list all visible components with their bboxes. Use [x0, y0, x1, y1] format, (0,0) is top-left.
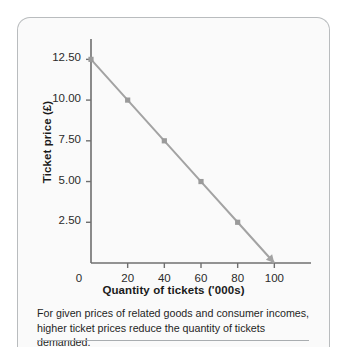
- y-tick-label: 2.50: [37, 214, 81, 226]
- chart-axes: [91, 39, 311, 263]
- x-tick-label: 80: [223, 272, 253, 284]
- data-point-marker: [235, 220, 240, 225]
- demand-curve-line: [91, 59, 274, 263]
- y-tick-label: 7.50: [37, 133, 81, 145]
- data-point-marker: [88, 57, 93, 62]
- figure-card: Ticket price (£) Quantity of tickets ('0…: [17, 17, 330, 347]
- x-tick-label: 20: [113, 272, 143, 284]
- caption-divider: [37, 340, 309, 341]
- x-tick-label: 100: [259, 272, 289, 284]
- y-tick-label: 10.00: [37, 92, 81, 104]
- x-tick-label: 60: [186, 272, 216, 284]
- x-tick-label: 40: [149, 272, 179, 284]
- y-tick-label: 12.50: [37, 51, 81, 63]
- data-point-marker: [198, 179, 203, 184]
- caption-line-1: For given prices of related goods and co…: [37, 306, 312, 321]
- x-axis-title: Quantity of tickets ('000s): [18, 284, 329, 296]
- caption-line-2: higher ticket prices reduce the quantity…: [37, 321, 312, 347]
- chart-plot-area: Ticket price (£) Quantity of tickets ('0…: [18, 18, 329, 296]
- data-point-marker: [125, 97, 130, 102]
- y-tick-label: 5.00: [37, 174, 81, 186]
- x-tick-label: 0: [64, 272, 94, 284]
- data-point-marker: [162, 138, 167, 143]
